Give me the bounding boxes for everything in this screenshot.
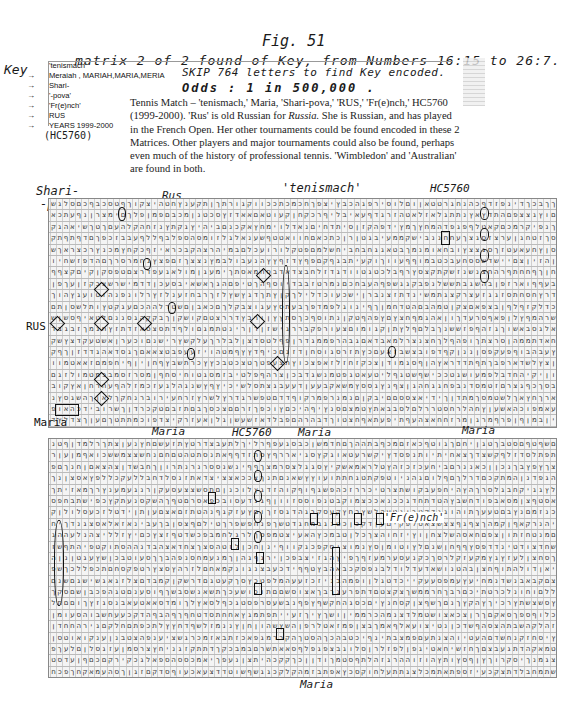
matrix-cell: ק [372,427,378,428]
matrix-cell: ס [94,644,100,654]
matrix-cell: פ [265,530,271,540]
matrix-cell: ו [271,210,277,220]
matrix-cell: ע [252,233,258,243]
matrix-cell: פ [265,576,271,586]
matrix-cell: מ [316,393,322,403]
matrix-cell: ט [265,393,271,403]
matrix-cell: ג [341,644,347,654]
matrix-cell: ה [62,222,68,232]
matrix-cell: א [88,667,94,677]
matrix-cell: ך [486,358,492,368]
matrix-cell: ך [372,302,378,312]
matrix-cell: ה [480,633,486,643]
matrix-cell: ו [132,290,138,300]
matrix-cell: ט [119,267,125,277]
matrix-cell: ט [94,542,100,552]
matrix-cell: א [151,347,157,357]
matrix-cell: ע [499,347,505,357]
matrix-cell: ס [132,644,138,654]
matrix-cell: י [62,485,68,495]
matrix-cell: ג [69,393,75,403]
matrix-cell: ו [436,439,442,449]
matrix-cell: ף [505,267,511,277]
matrix-cell: ח [62,621,68,631]
matrix-cell: ח [461,439,467,449]
matrix-cell: ב [455,496,461,506]
matrix-cell: י [347,610,353,620]
matrix-cell: ת [398,485,404,495]
matrix-cell: ך [126,199,132,209]
matrix-cell: א [107,336,113,346]
matrix-cell: ך [157,519,163,529]
matrix-cell: ע [354,450,360,460]
matrix-cell: ה [493,267,499,277]
matrix-cell: ט [62,633,68,643]
matrix-cell: ש [423,370,429,380]
matrix-cell: ו [531,587,537,597]
matrix-cell: ז [499,290,505,300]
matrix-cell: ו [537,610,543,620]
matrix-cell: ק [113,496,119,506]
matrix-cell: ב [531,576,537,586]
matrix-cell: ח [69,621,75,631]
matrix-cell: מ [252,610,258,620]
matrix-cell: ב [322,381,328,391]
matrix-cell: כ [138,415,144,425]
matrix-cell: ח [183,370,189,380]
matrix-cell: ד [157,473,163,483]
matrix-cell: ת [436,667,442,677]
matrix-cell: ו [429,473,435,483]
matrix-cell: כ [417,439,423,449]
matrix-cell: ל [107,530,113,540]
matrix-cell: ל [531,358,537,368]
matrix-cell: ב [119,633,125,643]
matrix-cell: ר [113,256,119,266]
matrix-cell: ד [233,393,239,403]
matrix-cell: ג [56,222,62,232]
matrix-cell: מ [391,233,397,243]
matrix-cell: ך [214,644,220,654]
matrix-cell: ף [62,439,68,449]
matrix-cell: ט [164,199,170,209]
highlight-box [354,513,362,525]
matrix-cell: ץ [436,655,442,665]
matrix-cell: נ [75,519,81,529]
matrix-cell: ר [543,290,549,300]
matrix-cell: ד [132,404,138,414]
matrix-cell: כ [518,404,524,414]
matrix-cell: ס [537,633,543,643]
matrix-cell: ך [347,439,353,449]
matrix-cell: ו [252,302,258,312]
matrix-cell: ץ [119,245,125,255]
matrix-cell: ץ [391,313,397,323]
matrix-cell: א [550,324,556,334]
matrix-cell: ם [537,587,543,597]
matrix-cell: ט [379,587,385,597]
matrix-cell: ג [138,655,144,665]
matrix-cell: ג [385,655,391,665]
matrix-cell: ח [436,587,442,597]
matrix-cell: ש [436,564,442,574]
matrix-cell: ר [259,598,265,608]
highlight-oval [388,346,396,358]
matrix-cell: ש [499,404,505,414]
matrix-cell: ט [214,519,220,529]
matrix-cell: ו [265,245,271,255]
matrix-cell: ז [461,324,467,334]
matrix-cell: צ [297,267,303,277]
matrix-cell: ז [126,370,132,380]
italic-russia: Russia. [288,110,319,121]
matrix-cell: א [436,313,442,323]
matrix-row: שחדצודטינדדפסץףףחןשנםלץוטומןסץנמוציסקפכג… [49,542,556,553]
matrix-cell: ן [88,210,94,220]
matrix-cell: ס [290,313,296,323]
matrix-cell: ם [94,358,100,368]
matrix-cell: ר [499,655,505,665]
matrix-cell: א [75,485,81,495]
matrix-cell: ס [56,633,62,643]
matrix-cell: ר [372,199,378,209]
matrix-cell: פ [157,655,163,665]
matrix-cell: ן [151,370,157,380]
matrix-cell: ג [56,370,62,380]
matrix-cell: ל [442,530,448,540]
